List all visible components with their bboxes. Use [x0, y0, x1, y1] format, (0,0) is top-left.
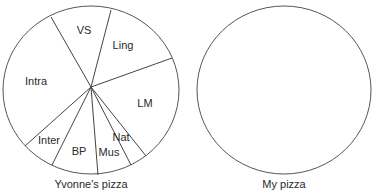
yvonnes-pizza-chart: VSLingLMNatMusBPInterIntra Yvonne's pizz…: [3, 6, 179, 190]
slice-label-nat: Nat: [112, 131, 129, 143]
my-pizza-outline: [197, 6, 371, 174]
slice-label-intra: Intra: [25, 75, 48, 87]
my-pizza-chart: My pizza: [197, 6, 371, 190]
slice-label-vs: VS: [77, 24, 92, 36]
yvonnes-pizza-caption: Yvonne's pizza: [54, 178, 128, 190]
slice-label-lm: LM: [137, 97, 152, 109]
pizza-comparison-figure: VSLingLMNatMusBPInterIntra Yvonne's pizz…: [0, 0, 372, 192]
slice-label-ling: Ling: [113, 39, 134, 51]
slice-label-inter: Inter: [38, 134, 60, 146]
my-pizza-caption: My pizza: [262, 178, 306, 190]
slice-label-mus: Mus: [99, 146, 120, 158]
slice-label-bp: BP: [72, 145, 87, 157]
